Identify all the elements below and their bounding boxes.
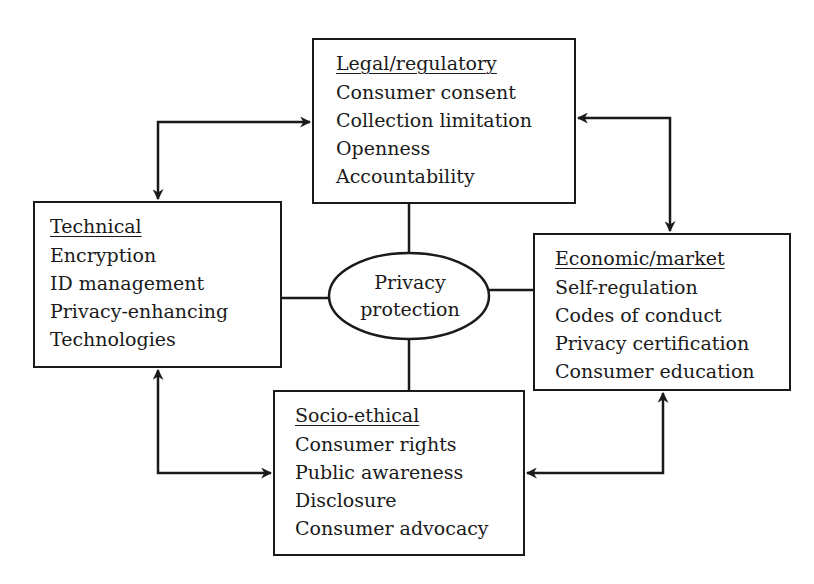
technical-box-title: Technical [50,213,280,239]
economic-item: Self-regulation [555,273,789,301]
center-label-line1: Privacy [374,269,445,296]
socio-item: Public awareness [295,458,523,486]
legal-box-title: Legal/regulatory [336,50,574,76]
socio-item: Disclosure [295,486,523,514]
legal-item: Accountability [336,162,574,190]
economic-box-title: Economic/market [555,245,789,271]
economic-item: Privacy certification [555,329,789,357]
technical-item: ID management [50,269,280,297]
economic-item: Consumer education [555,357,789,385]
center-label-line2: protection [360,296,460,323]
arrow-legal-economic [578,118,670,231]
technical-item: Technologies [50,325,280,353]
socio-item: Consumer advocacy [295,514,523,542]
arrow-socio-economic [527,393,663,473]
technical-item: Privacy-enhancing [50,297,280,325]
economic-market-box: Economic/market Self-regulation Codes of… [533,233,791,391]
socio-item: Consumer rights [295,430,523,458]
privacy-protection-diagram: Privacy protection Legal/regulatory Cons… [0,0,814,584]
arrow-technical-legal [158,122,310,199]
arrow-technical-socio [158,370,271,473]
legal-item: Consumer consent [336,78,574,106]
legal-item: Collection limitation [336,106,574,134]
legal-item: Openness [336,134,574,162]
socio-ethical-box: Socio-ethical Consumer rights Public awa… [273,390,525,556]
technical-box: Technical Encryption ID management Priva… [33,201,282,368]
technical-item: Encryption [50,241,280,269]
economic-item: Codes of conduct [555,301,789,329]
socio-box-title: Socio-ethical [295,402,523,428]
legal-regulatory-box: Legal/regulatory Consumer consent Collec… [312,38,576,204]
center-label: Privacy protection [330,252,490,340]
